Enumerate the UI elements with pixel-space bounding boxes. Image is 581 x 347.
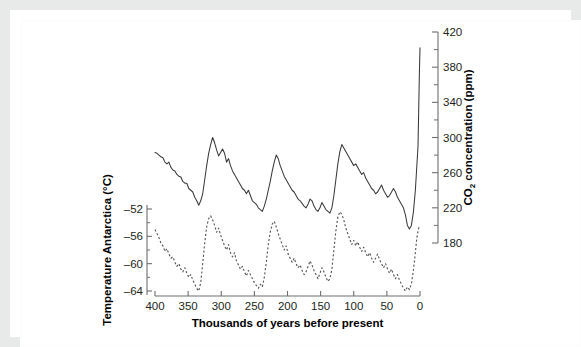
right-axis-title: CO2 concentration (ppm) bbox=[462, 69, 477, 205]
left-axis-tick-label: –52 bbox=[124, 203, 143, 215]
right-axis-tick-label: 300 bbox=[443, 132, 462, 144]
x-axis-tick-labels: 400350300250200150100500 bbox=[145, 300, 423, 312]
x-axis-tick-label: 0 bbox=[417, 300, 423, 312]
left-axis: –52–56–60–64 Temperature Antarctica (°C) bbox=[101, 174, 152, 326]
right-axis-tick-label: 220 bbox=[443, 202, 462, 214]
right-axis-tick-label: 340 bbox=[443, 96, 462, 108]
right-axis-ticks bbox=[432, 32, 438, 243]
x-axis-tick-label: 350 bbox=[179, 300, 198, 312]
left-axis-tick-label: –64 bbox=[124, 285, 144, 297]
right-axis: 420380340300260220180 CO2 concentration … bbox=[432, 26, 477, 249]
right-axis-tick-label: 380 bbox=[443, 61, 462, 73]
left-axis-ticks bbox=[147, 209, 152, 291]
x-axis-tick-label: 50 bbox=[380, 300, 393, 312]
right-axis-tick-label: 260 bbox=[443, 167, 462, 179]
x-axis: 400350300250200150100500 Thousands of ye… bbox=[145, 291, 423, 329]
left-axis-tick-label: –60 bbox=[124, 258, 143, 270]
x-axis-tick-label: 150 bbox=[311, 300, 330, 312]
right-axis-tick-label: 420 bbox=[443, 26, 462, 38]
x-axis-title: Thousands of years before present bbox=[192, 317, 384, 329]
series-co2-concentration bbox=[155, 48, 420, 229]
x-axis-tick-label: 300 bbox=[212, 300, 231, 312]
paleoclimate-chart: –52–56–60–64 Temperature Antarctica (°C)… bbox=[0, 0, 581, 347]
series-temperature-antarctica bbox=[155, 212, 420, 291]
x-axis-tick-label: 400 bbox=[145, 300, 164, 312]
right-axis-tick-label: 180 bbox=[443, 237, 462, 249]
right-axis-title-main: CO bbox=[462, 188, 474, 205]
x-axis-tick-label: 100 bbox=[344, 300, 363, 312]
right-axis-tick-labels: 420380340300260220180 bbox=[443, 26, 462, 249]
right-axis-title-rest: concentration (ppm) bbox=[462, 69, 474, 184]
x-axis-tick-label: 200 bbox=[278, 300, 297, 312]
left-axis-title: Temperature Antarctica (°C) bbox=[101, 174, 113, 326]
left-axis-tick-labels: –52–56–60–64 bbox=[124, 203, 144, 297]
left-axis-tick-label: –56 bbox=[124, 230, 143, 242]
x-axis-ticks bbox=[155, 291, 420, 296]
data-series-group bbox=[155, 48, 420, 291]
figure-root: –52–56–60–64 Temperature Antarctica (°C)… bbox=[0, 0, 581, 347]
x-axis-tick-label: 250 bbox=[245, 300, 264, 312]
